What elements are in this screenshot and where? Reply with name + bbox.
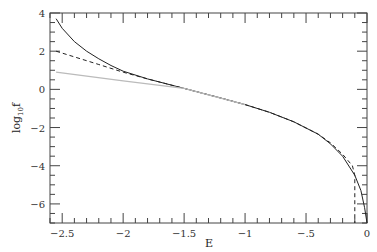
y-tick-label: −6 — [30, 199, 45, 210]
x-tick-label: −2.5 — [50, 228, 74, 239]
x-tick-label: 0 — [364, 228, 370, 239]
x-tick-label: −2 — [116, 228, 131, 239]
y-tick-label: 4 — [39, 8, 45, 19]
y-tick-label: −4 — [30, 161, 45, 172]
series-lines — [56, 19, 367, 223]
x-tick-label: −1.5 — [172, 228, 196, 239]
chart: −2.5−2−1.5−1−.50 420−2−4−6 E log10f — [0, 0, 377, 252]
y-tick-labels: 420−2−4−6 — [30, 8, 45, 210]
x-axis-label: E — [205, 237, 213, 250]
y-axis-label: log10f — [10, 102, 25, 133]
series-dashed-line — [56, 51, 355, 223]
series-solid-line — [56, 19, 367, 223]
y-tick-label: −2 — [30, 123, 45, 134]
y-tick-label: 0 — [39, 84, 45, 95]
series-gray-line — [56, 72, 245, 104]
x-tick-label: −1 — [238, 228, 253, 239]
y-tick-label: 2 — [39, 46, 45, 57]
x-tick-label: −.5 — [297, 228, 315, 239]
plot-frame — [50, 13, 367, 223]
axis-ticks — [50, 13, 367, 223]
